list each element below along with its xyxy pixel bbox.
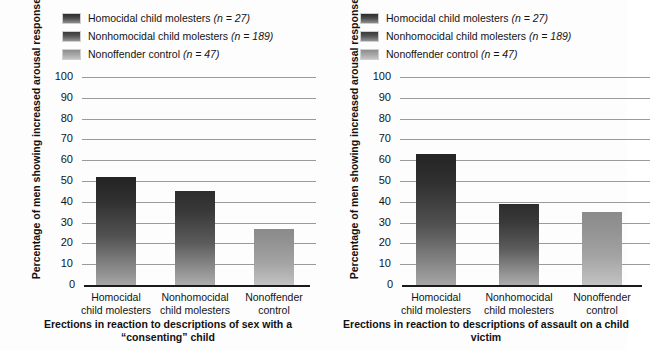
y-axis-title: Percentage of men showing increased arou… bbox=[348, 49, 361, 279]
y-axis-tick-label: 40 bbox=[379, 196, 391, 207]
legend-label: Homocidal child molesters (n = 27) bbox=[88, 12, 250, 24]
legend-label: Nonhomocidal child molesters (n = 189) bbox=[386, 30, 571, 42]
category-label-line: Nonoffender bbox=[542, 291, 654, 304]
legend-item: Nonhomocidal child molesters (n = 189) bbox=[62, 27, 332, 45]
y-axis-title: Percentage of men showing increased arou… bbox=[30, 49, 43, 279]
y-axis-tick-label: 30 bbox=[61, 217, 73, 228]
category-label-line: Nonoffender bbox=[214, 291, 334, 304]
legend-swatch-icon bbox=[62, 31, 81, 42]
x-axis-line: 0 bbox=[84, 285, 310, 287]
chart-caption: Erections in reaction to descriptions of… bbox=[336, 318, 636, 343]
gridline: 60 bbox=[82, 160, 316, 161]
y-axis-tick-label: 50 bbox=[379, 175, 391, 186]
x-axis-category-label: Nonoffendercontrol bbox=[542, 291, 654, 316]
legend-swatch-icon bbox=[360, 31, 379, 42]
gridline: 90 bbox=[400, 98, 650, 99]
bar bbox=[175, 191, 215, 285]
legend-right: Homocidal child molesters (n = 27) Nonho… bbox=[360, 9, 630, 63]
y-axis-tick-label: 30 bbox=[379, 217, 391, 228]
legend-item: Homocidal child molesters (n = 27) bbox=[62, 9, 332, 27]
chart-panel-left: Homocidal child molesters (n = 27) Nonho… bbox=[0, 0, 330, 350]
legend-swatch-icon bbox=[62, 49, 81, 60]
bar bbox=[96, 177, 136, 285]
gridline: 80 bbox=[400, 119, 650, 120]
gridline: 90 bbox=[82, 98, 316, 99]
legend-item: Homocidal child molesters (n = 27) bbox=[360, 9, 630, 27]
y-axis-tick-label: 20 bbox=[61, 237, 73, 248]
legend-item: Nonoffender control (n = 47) bbox=[62, 45, 332, 63]
legend-label: Nonhomocidal child molesters (n = 189) bbox=[88, 30, 273, 42]
x-axis-line: 0 bbox=[402, 285, 642, 287]
x-axis-category-label: Nonoffendercontrol bbox=[214, 291, 334, 316]
legend-left: Homocidal child molesters (n = 27) Nonho… bbox=[62, 9, 332, 63]
y-axis-tick-label: 60 bbox=[61, 154, 73, 165]
legend-item: Nonoffender control (n = 47) bbox=[360, 45, 630, 63]
legend-swatch-icon bbox=[360, 49, 379, 60]
gridline: 80 bbox=[82, 119, 316, 120]
plot-area-right: 1009080706050403020100 bbox=[410, 77, 632, 285]
legend-swatch-icon bbox=[360, 13, 379, 24]
y-axis-tick-label: 70 bbox=[61, 133, 73, 144]
y-axis-tick-label: 40 bbox=[61, 196, 73, 207]
chart-caption: Erections in reaction to descriptions of… bbox=[18, 318, 318, 343]
y-axis-tick-label: 10 bbox=[379, 258, 391, 269]
y-axis-tick-label: 80 bbox=[61, 113, 73, 124]
y-axis-tick-label: 0 bbox=[69, 279, 75, 290]
y-axis-tick-label: 100 bbox=[373, 71, 391, 82]
gridline: 70 bbox=[400, 139, 650, 140]
legend-item: Nonhomocidal child molesters (n = 189) bbox=[360, 27, 630, 45]
bar bbox=[582, 212, 622, 285]
plot-area-left: 1009080706050403020100 bbox=[92, 77, 304, 285]
y-axis-tick-label: 90 bbox=[61, 92, 73, 103]
y-axis-tick-label: 50 bbox=[61, 175, 73, 186]
y-axis-tick-label: 10 bbox=[61, 258, 73, 269]
legend-label: Homocidal child molesters (n = 27) bbox=[386, 12, 548, 24]
category-label-line: control bbox=[214, 304, 334, 317]
legend-label: Nonoffender control (n = 47) bbox=[386, 48, 517, 60]
y-axis-tick-label: 60 bbox=[379, 154, 391, 165]
y-axis-tick-label: 100 bbox=[55, 71, 73, 82]
bar bbox=[499, 204, 539, 285]
legend-label: Nonoffender control (n = 47) bbox=[88, 48, 219, 60]
y-axis-tick-label: 20 bbox=[379, 237, 391, 248]
chart-panel-right: Homocidal child molesters (n = 27) Nonho… bbox=[330, 0, 627, 350]
y-axis-tick-label: 90 bbox=[379, 92, 391, 103]
y-axis-tick-label: 0 bbox=[387, 279, 393, 290]
gridline: 100 bbox=[82, 77, 316, 78]
bar bbox=[254, 229, 294, 285]
y-axis-tick-label: 70 bbox=[379, 133, 391, 144]
gridline: 70 bbox=[82, 139, 316, 140]
legend-swatch-icon bbox=[62, 13, 81, 24]
gridline: 100 bbox=[400, 77, 650, 78]
category-label-line: control bbox=[542, 304, 654, 317]
y-axis-tick-label: 80 bbox=[379, 113, 391, 124]
bar bbox=[416, 154, 456, 285]
